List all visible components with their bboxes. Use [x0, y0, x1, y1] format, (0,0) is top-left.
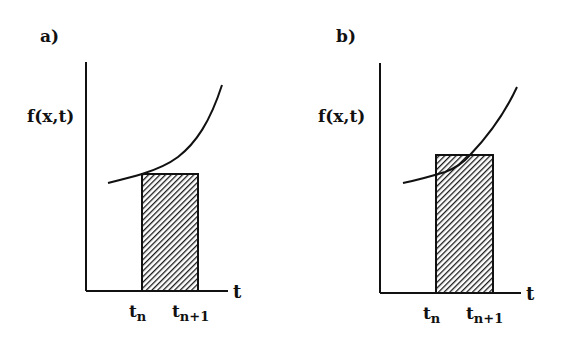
panel-a-y-axis-label: f(x,t): [27, 106, 74, 126]
panel-b-x-axis-label: t: [526, 283, 535, 304]
panel-b-tick-tn: tn: [423, 303, 441, 326]
figure: a) f(x,t) t tn tn+1 b) f(x,t) t tn tn+1: [0, 0, 564, 339]
panel-b: b) f(x,t) t tn tn+1: [318, 26, 535, 326]
panel-a-hatched-rectangle: [142, 174, 198, 291]
panel-a-tick-tn: tn: [129, 301, 147, 324]
panel-b-label: b): [336, 26, 356, 46]
panel-a-function-curve: [108, 85, 222, 183]
panel-b-hatched-rectangle: [436, 155, 493, 293]
panel-b-y-axis-label: f(x,t): [318, 106, 365, 126]
panel-a-x-axis-label: t: [233, 281, 242, 302]
panel-a: a) f(x,t) t tn tn+1: [27, 26, 242, 324]
panel-a-label: a): [40, 26, 59, 46]
panel-a-tick-tn1: tn+1: [172, 301, 209, 324]
panel-b-tick-tn1: tn+1: [466, 303, 503, 326]
